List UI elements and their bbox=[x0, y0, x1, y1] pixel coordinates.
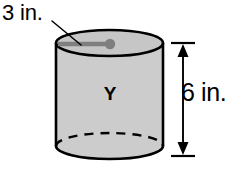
solid-name-label: Y bbox=[0, 84, 220, 103]
cylinder-figure: 3 in. 6 in. Y bbox=[0, 0, 230, 191]
dimension-arrowhead-up bbox=[178, 44, 189, 57]
circle-center-dot bbox=[105, 39, 115, 49]
radius-dimension-label: 3 in. bbox=[2, 2, 43, 24]
dimension-arrowhead-down bbox=[178, 142, 189, 155]
